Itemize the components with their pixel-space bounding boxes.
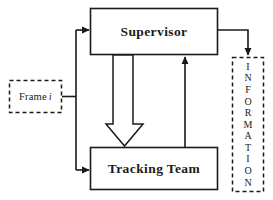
edge-supervisor-to-information <box>218 30 248 55</box>
frame-box <box>10 81 62 113</box>
supervisor-box <box>91 9 218 55</box>
information-box <box>233 58 264 192</box>
diagram-canvas: Supervisor Tracking Team Framei INFORMAT… <box>0 0 273 200</box>
tracking-team-box <box>91 148 218 190</box>
diagram-svg <box>0 0 273 200</box>
edge-supervisor-to-tracking-team <box>106 55 143 146</box>
